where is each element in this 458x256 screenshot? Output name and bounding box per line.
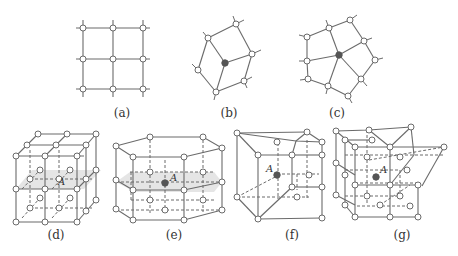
panel-a-diagram [76,20,150,97]
panel-a-caption: (a) [114,106,131,120]
panel-b-caption: (b) [220,106,237,120]
panel-g-diagram [333,124,447,220]
panel-d-caption: (d) [47,228,64,242]
panel-b-diagram [192,16,261,100]
atom-a [274,172,280,178]
panel-d-diagram [13,131,101,225]
figure-graphics [0,0,458,256]
defect-atom [222,60,228,66]
defect-atom [336,52,342,58]
panel-c-caption: (c) [329,106,345,120]
atom-a [373,174,379,180]
atom-a-label-e: A [170,172,177,183]
panel-c-diagram [299,15,383,103]
panel-f-caption: (f) [285,228,299,242]
panel-e-diagram [113,134,225,223]
atom-a-label-f: A [266,163,273,174]
atom-a-label-g: A [380,164,387,175]
panel-g-caption: (g) [393,228,410,242]
atom-a [162,180,168,186]
panel-e-caption: (e) [166,228,182,242]
atom-a-label-d: A [58,176,65,187]
panel-f-diagram [234,129,325,222]
lattice-figure: A A A A (a) (b) (c) (d) (e) (f) (g) [0,0,458,256]
